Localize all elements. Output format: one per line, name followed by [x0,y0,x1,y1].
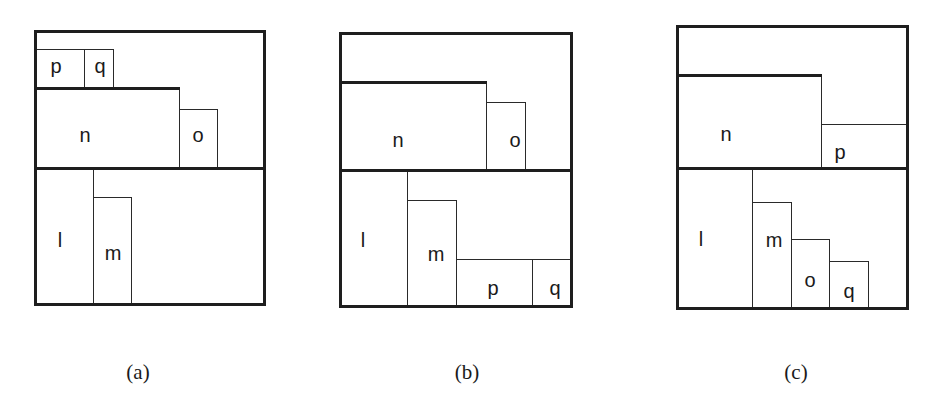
block-label-m: m [105,243,122,263]
block-label-p: p [487,278,498,298]
block-label-n: n [720,124,731,144]
shelf-line [34,167,266,170]
block-label-l: l [699,229,703,249]
block-label-n: n [392,130,403,150]
block-m [407,200,457,307]
block-label-m: m [766,230,783,250]
block-n [340,82,487,170]
block-l [677,168,753,309]
block-l [340,170,408,307]
outer-bin [34,30,266,306]
block-label-o: o [509,130,520,150]
block-label-q: q [94,56,105,76]
block-m [93,197,132,305]
outer-bin [676,25,909,310]
block-label-m: m [428,244,445,264]
panel-caption-c: (c) [784,362,807,383]
block-q [532,259,573,307]
block-p [456,259,533,307]
shelf-line [339,169,573,172]
shelf-line [339,81,487,84]
block-label-o: o [804,270,815,290]
block-l [35,168,94,305]
block-label-l: l [361,230,365,250]
block-label-l: l [58,230,62,250]
block-p [821,124,907,168]
shelf-line [676,167,909,170]
block-o [791,239,830,309]
block-p [35,49,85,88]
block-label-q: q [843,281,854,301]
block-label-n: n [79,125,90,145]
block-o [179,109,218,169]
block-n [35,88,180,169]
outer-bin [339,32,573,308]
block-m [752,202,792,309]
block-label-q: q [549,278,560,298]
shelf-line [34,87,180,90]
panel-c: nplmoq(c) [0,0,944,409]
block-q [84,49,114,88]
block-label-p: p [834,142,845,162]
figure-canvas: pqnolm(a)nolmpq(b)nplmoq(c) [0,0,944,409]
panel-caption-a: (a) [126,362,149,383]
block-label-o: o [192,125,203,145]
block-o [486,102,526,170]
shelf-line [676,74,822,77]
block-q [829,261,869,309]
panel-b: nolmpq(b) [0,0,944,409]
block-label-p: p [50,56,61,76]
block-n [677,75,822,168]
panel-a: pqnolm(a) [0,0,944,409]
panel-caption-b: (b) [455,362,480,383]
